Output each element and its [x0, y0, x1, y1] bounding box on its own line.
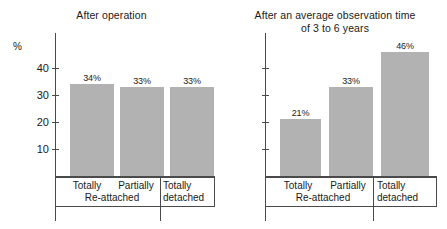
- left-ytick-label-10: 10: [23, 143, 49, 155]
- right-bar-value-2: 33%: [329, 76, 373, 86]
- left-bar-totally-detached: [170, 87, 214, 176]
- left-ytick-10: [52, 149, 59, 150]
- left-category-label-reattached: Re-attached: [63, 192, 161, 204]
- left-ytick-label-40: 40: [23, 62, 49, 74]
- left-category-label-partially: Partially: [111, 180, 161, 192]
- figure-two-bar-charts: After operation 40 30 20 10 % 34% 33% 33…: [0, 0, 447, 229]
- left-y-axis-line: [55, 33, 56, 178]
- left-ytick-20: [52, 122, 59, 123]
- right-chart-title-line1: After an average observation time: [223, 9, 447, 22]
- right-category-label-detached: detached: [377, 192, 435, 204]
- right-bar-partially-reattached: [329, 87, 373, 176]
- right-category-label-partially: Partially: [323, 180, 373, 192]
- right-bar-value-1: 21%: [280, 108, 321, 118]
- left-bar-totally-reattached: [70, 84, 114, 176]
- right-y-axis-line: [265, 33, 266, 178]
- chart-panel-after-operation: After operation 40 30 20 10 % 34% 33% 33…: [0, 0, 223, 229]
- left-bar-partially-reattached: [120, 87, 164, 176]
- left-ytick-label-30: 30: [23, 89, 49, 101]
- right-ytick-10: [262, 149, 269, 150]
- right-category-label-totally-2: Totally: [377, 180, 435, 192]
- left-category-label-totally-2: Totally: [163, 180, 215, 192]
- left-bar-value-2: 33%: [120, 76, 164, 86]
- left-ytick-label-20: 20: [23, 116, 49, 128]
- right-chart-title-line2: of 3 to 6 years: [223, 22, 447, 35]
- right-category-label-reattached: Re-attached: [273, 192, 373, 204]
- left-chart-title: After operation: [0, 9, 223, 22]
- left-ytick-40: [52, 68, 59, 69]
- right-ytick-30: [262, 95, 269, 96]
- right-bar-totally-detached: [381, 52, 429, 176]
- right-axis-stub-mid: [373, 207, 374, 221]
- left-axis-stub-start: [55, 207, 56, 221]
- chart-panel-after-observation: After an average observation time of 3 t…: [223, 0, 447, 229]
- left-bar-value-3: 33%: [170, 76, 214, 86]
- right-bar-value-3: 46%: [381, 41, 429, 51]
- left-ytick-30: [52, 95, 59, 96]
- left-category-label-totally-1: Totally: [63, 180, 111, 192]
- left-bar-value-1: 34%: [70, 73, 114, 83]
- right-category-label-totally-1: Totally: [273, 180, 323, 192]
- left-axis-unit-label: %: [13, 41, 22, 52]
- right-ytick-20: [262, 122, 269, 123]
- right-ytick-40: [262, 68, 269, 69]
- left-axis-stub-mid: [160, 207, 161, 221]
- right-bar-totally-reattached: [280, 119, 321, 176]
- left-category-label-detached: detached: [163, 192, 215, 204]
- right-category-divider: [373, 177, 374, 207]
- right-axis-stub-start: [265, 207, 266, 221]
